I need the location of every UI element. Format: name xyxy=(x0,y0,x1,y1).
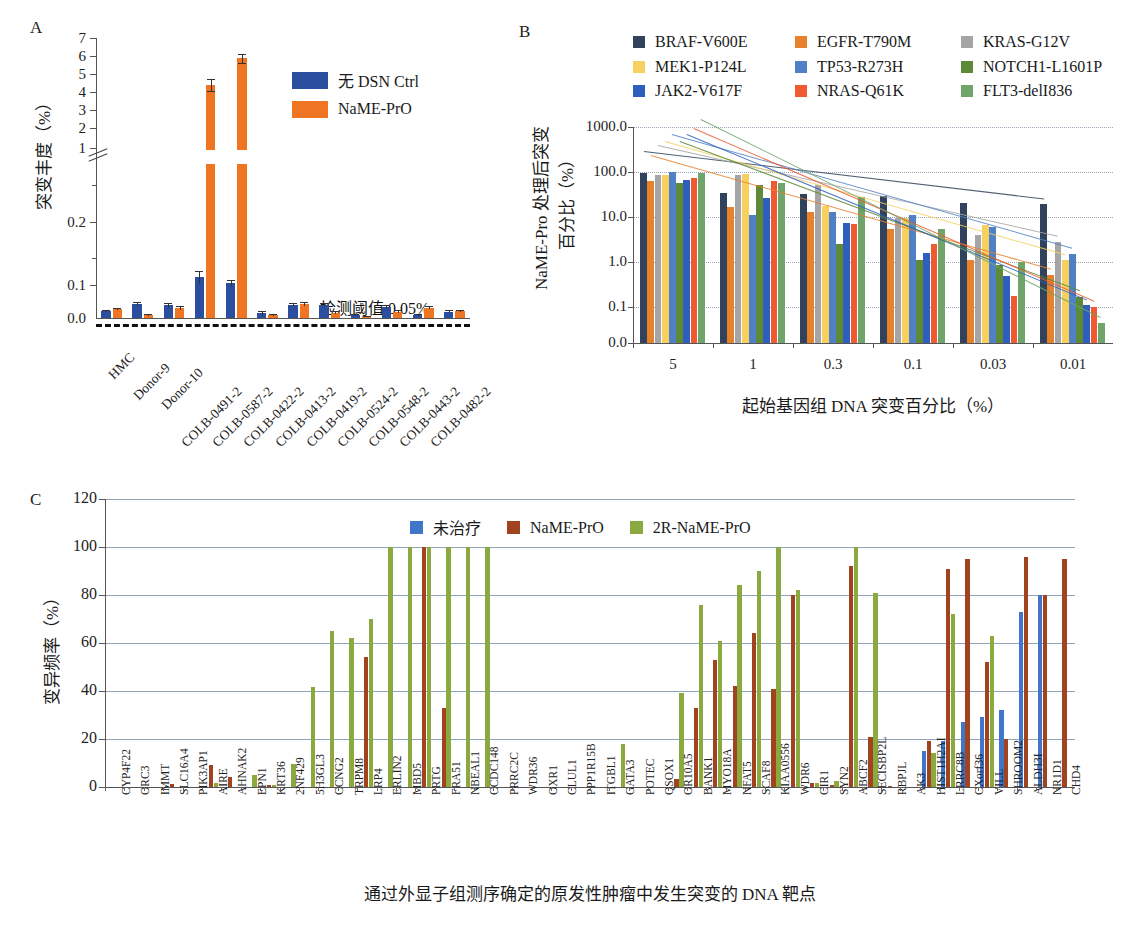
xtick-label: PRRC2C xyxy=(508,752,520,795)
legend-label-name-pro: NaME-PrO xyxy=(530,519,604,537)
xtick xyxy=(532,787,533,791)
xtick xyxy=(920,787,921,791)
xtick-label: NR1D1 xyxy=(1051,759,1063,795)
legend-swatch-name-pro xyxy=(507,521,520,534)
panel-b-xlabel: 起始基因组 DNA 突变百分比（%） xyxy=(633,392,1113,417)
xtick xyxy=(260,787,261,791)
xtick-label: KRT36 xyxy=(275,761,287,795)
xtick xyxy=(900,787,901,791)
xtick xyxy=(415,787,416,791)
xtick-label: PPP1R15B xyxy=(585,743,597,795)
legend-swatch-untreated xyxy=(410,521,423,534)
xtick-label: ERLIN2 xyxy=(391,755,403,795)
xtick-label: EPN1 xyxy=(256,768,268,795)
xtick xyxy=(377,787,378,791)
xtick-label: HIST1H2AI xyxy=(935,738,947,796)
panel-a: A 突变丰度（%） 7 6 5 4 3 2 1 0.2 0.1 0.0 检测阈值… xyxy=(0,0,500,450)
xtick-label: FRA51 xyxy=(450,761,462,795)
xtick-label: RBPJL xyxy=(896,762,908,795)
xtick xyxy=(633,343,634,348)
xtick xyxy=(629,787,630,791)
xtick xyxy=(396,787,397,791)
xtick-label: HMC xyxy=(105,350,138,383)
xtick-label: AHNAK2 xyxy=(236,748,248,795)
xtick-label: SCAF8 xyxy=(760,760,772,795)
legend-label-2r-name-pro: 2R-NaME-PrO xyxy=(653,519,751,537)
xtick-label: MBD5 xyxy=(411,763,423,795)
xtick xyxy=(997,787,998,791)
xtick xyxy=(713,343,714,348)
legend-item-2r-name-pro[interactable]: 2R-NaME-PrO xyxy=(630,517,751,536)
xtick xyxy=(163,787,164,791)
xtick xyxy=(493,787,494,791)
xtick xyxy=(105,787,106,791)
xtick-label: BANK1 xyxy=(702,757,714,795)
xtick xyxy=(687,787,688,791)
xtick xyxy=(803,787,804,791)
xtick xyxy=(338,787,339,791)
panel-b-xtick-labels: 510.30.10.030.01 xyxy=(505,0,1121,450)
xtick xyxy=(953,343,954,348)
xtick xyxy=(881,787,882,791)
xtick-label: WDR6 xyxy=(799,762,811,795)
xtick xyxy=(609,787,610,791)
xtick xyxy=(454,787,455,791)
xtick-label: 0.1 xyxy=(873,357,953,372)
xtick xyxy=(648,787,649,791)
xtick xyxy=(706,787,707,791)
xtick-label: POTEC xyxy=(644,759,656,795)
xtick-label: AIRE xyxy=(217,768,229,795)
xtick-label: TRPM8 xyxy=(353,758,365,795)
xtick xyxy=(357,787,358,791)
xtick-label: CCDC148 xyxy=(488,746,500,795)
xtick xyxy=(280,787,281,791)
xtick-label: 0.03 xyxy=(953,357,1033,372)
xtick xyxy=(939,787,940,791)
xtick xyxy=(1017,787,1018,791)
xtick xyxy=(124,787,125,791)
xtick-label: VILL xyxy=(993,769,1005,795)
xtick xyxy=(793,343,794,348)
xtick-label: ABCF2 xyxy=(857,759,869,795)
xtick-label: ALDH3I xyxy=(1032,753,1044,795)
xtick-label: 2NF429 xyxy=(294,757,306,795)
xtick-label: CYP4F22 xyxy=(120,749,132,795)
xtick xyxy=(221,787,222,791)
xtick-label: MYO18A xyxy=(721,748,733,795)
xtick-label: QSOX1 xyxy=(663,758,675,795)
xtick-label: SHROOM2 xyxy=(1012,740,1024,795)
xtick-label: 0.3 xyxy=(793,357,873,372)
legend-item-name-pro[interactable]: NaME-PrO xyxy=(507,517,604,536)
xtick-label: 1 xyxy=(713,357,793,372)
xtick xyxy=(873,343,874,348)
xtick-label: 5H3GL3 xyxy=(314,754,326,795)
xtick-label: SECISBP2L xyxy=(876,737,888,795)
xtick xyxy=(1056,787,1057,791)
xtick-label: ITGBL1 xyxy=(605,755,617,795)
xtick xyxy=(241,787,242,791)
xtick-label: CHD4 xyxy=(1070,765,1082,795)
xtick-label: PRTG xyxy=(430,766,442,795)
xtick-label: CLUL1 xyxy=(566,759,578,795)
xtick xyxy=(590,787,591,791)
xtick xyxy=(299,787,300,791)
xtick xyxy=(474,787,475,791)
xtick xyxy=(765,787,766,791)
xtick-label: 0.01 xyxy=(1033,357,1113,372)
xtick-label: KIAA0556 xyxy=(779,743,791,795)
xtick xyxy=(551,787,552,791)
xtick-label: LRRC8B xyxy=(954,752,966,795)
xtick-label: SLC16A4 xyxy=(178,748,190,795)
xtick-label: GATA3 xyxy=(624,760,636,796)
xtick xyxy=(1036,787,1037,791)
xtick-label: OXR1 xyxy=(547,765,559,795)
xtick-label: NBEAL1 xyxy=(469,751,481,795)
xtick xyxy=(668,787,669,791)
xtick xyxy=(823,787,824,791)
xtick xyxy=(435,787,436,791)
legend-swatch-2r-name-pro xyxy=(630,521,643,534)
xtick xyxy=(144,787,145,791)
legend-item-untreated[interactable]: 未治疗 xyxy=(410,515,481,539)
xtick xyxy=(959,787,960,791)
xtick xyxy=(512,787,513,791)
